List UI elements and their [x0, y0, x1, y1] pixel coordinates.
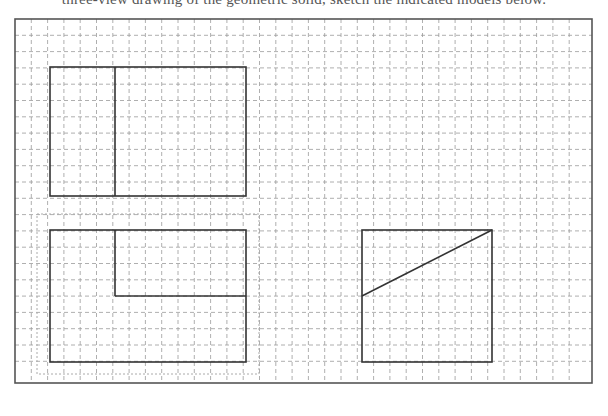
- top-view: [37, 214, 259, 374]
- front-view: [50, 67, 246, 196]
- front-view-outline: [50, 67, 246, 196]
- side-view-edge: [362, 230, 492, 296]
- dashed-grid: [15, 19, 592, 383]
- orthographic-drawing: [0, 0, 608, 416]
- views-group: [37, 67, 492, 374]
- dotted-outline: [37, 214, 259, 374]
